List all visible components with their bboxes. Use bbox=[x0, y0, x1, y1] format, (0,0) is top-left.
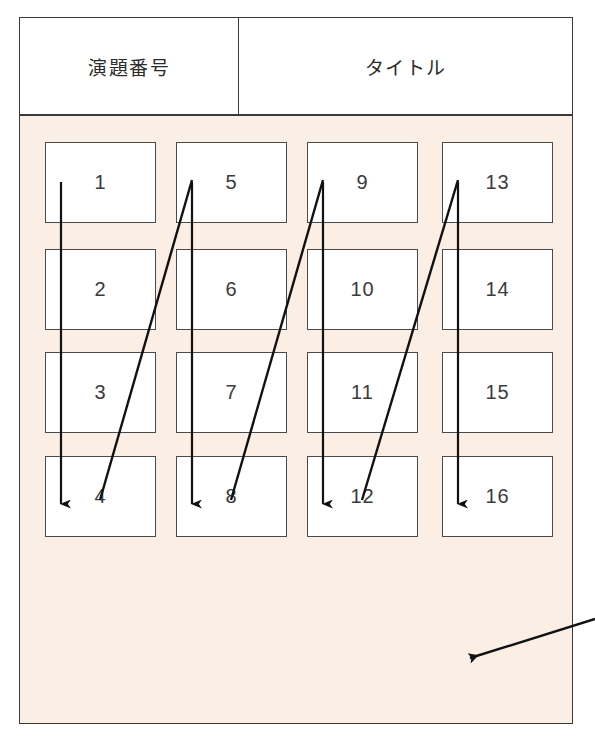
numbered-card[interactable]: 8 bbox=[176, 456, 287, 537]
header-label-presentation-number: 演題番号 bbox=[88, 53, 170, 80]
numbered-card-label: 4 bbox=[94, 485, 106, 508]
numbered-card-label: 16 bbox=[485, 485, 509, 508]
numbered-card[interactable]: 10 bbox=[307, 249, 418, 330]
numbered-card-label: 8 bbox=[225, 485, 237, 508]
numbered-card-grid: 12345678910111213141516 bbox=[20, 116, 574, 725]
numbered-card[interactable]: 5 bbox=[176, 142, 287, 223]
header-cell-presentation-number: 演題番号 bbox=[20, 18, 239, 114]
numbered-card[interactable]: 16 bbox=[442, 456, 553, 537]
numbered-card[interactable]: 11 bbox=[307, 352, 418, 433]
header-label-title: タイトル bbox=[365, 53, 447, 80]
header-table: 演題番号 タイトル bbox=[19, 17, 573, 115]
numbered-card-label: 6 bbox=[225, 278, 237, 301]
content-panel: 12345678910111213141516 bbox=[19, 115, 573, 724]
header-cell-title: タイトル bbox=[239, 18, 572, 114]
numbered-card-label: 9 bbox=[356, 171, 368, 194]
numbered-card-label: 2 bbox=[94, 278, 106, 301]
numbered-card[interactable]: 7 bbox=[176, 352, 287, 433]
numbered-card[interactable]: 6 bbox=[176, 249, 287, 330]
numbered-card-label: 7 bbox=[225, 381, 237, 404]
numbered-card-label: 3 bbox=[94, 381, 106, 404]
numbered-card-label: 5 bbox=[225, 171, 237, 194]
numbered-card[interactable]: 13 bbox=[442, 142, 553, 223]
numbered-card-label: 13 bbox=[485, 171, 509, 194]
numbered-card[interactable]: 15 bbox=[442, 352, 553, 433]
numbered-card[interactable]: 4 bbox=[45, 456, 156, 537]
numbered-card[interactable]: 3 bbox=[45, 352, 156, 433]
numbered-card-label: 15 bbox=[485, 381, 509, 404]
numbered-card[interactable]: 1 bbox=[45, 142, 156, 223]
numbered-card-label: 14 bbox=[485, 278, 509, 301]
numbered-card-label: 12 bbox=[350, 485, 374, 508]
numbered-card[interactable]: 9 bbox=[307, 142, 418, 223]
figure-root: 演題番号 タイトル 12345678910111213141516 bbox=[0, 0, 595, 742]
numbered-card[interactable]: 2 bbox=[45, 249, 156, 330]
numbered-card-label: 1 bbox=[94, 171, 106, 194]
numbered-card[interactable]: 12 bbox=[307, 456, 418, 537]
numbered-card-label: 10 bbox=[350, 278, 374, 301]
numbered-card[interactable]: 14 bbox=[442, 249, 553, 330]
numbered-card-label: 11 bbox=[351, 381, 374, 404]
